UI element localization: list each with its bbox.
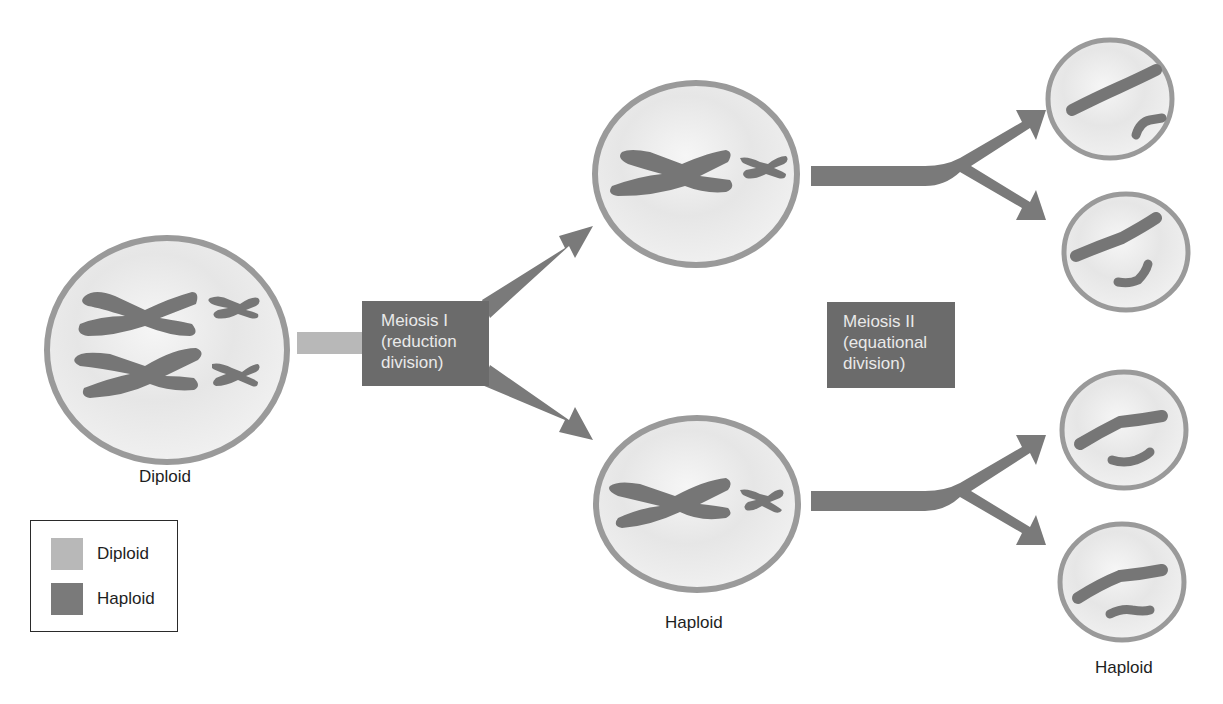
gamete-4: [1060, 524, 1184, 640]
diploid-swatch: [51, 538, 83, 570]
meiosis1-line-2: (reduction: [381, 331, 489, 352]
meiosis2-line-3: division): [843, 353, 955, 374]
meiosis1-bottom-cell: [596, 418, 798, 590]
legend-item-haploid: Haploid: [51, 583, 155, 615]
meiosis2-top-fork-arrow: [811, 110, 1046, 220]
gamete-2: [1064, 194, 1188, 310]
meiosis2-line-2: (equational: [843, 332, 955, 353]
meiosis1-line-1: Meiosis I: [381, 310, 489, 331]
parent-cell-label: Diploid: [139, 467, 191, 487]
diagram-canvas: [0, 0, 1223, 704]
legend-label-haploid: Haploid: [97, 589, 155, 609]
meiosis-diagram: Meiosis I (reduction division) Meiosis I…: [0, 0, 1223, 704]
gamete-3: [1062, 372, 1186, 488]
meiosis2-product-label: Haploid: [1095, 658, 1153, 678]
legend: Diploid Haploid: [30, 520, 178, 632]
arrow-up-right-icon: [482, 226, 593, 318]
legend-label-diploid: Diploid: [97, 544, 149, 564]
meiosis1-top-cell: [595, 83, 797, 265]
meiosis1-line-3: division): [381, 352, 489, 373]
legend-item-diploid: Diploid: [51, 538, 149, 570]
meiosis2-line-1: Meiosis II: [843, 311, 955, 332]
meiosis1-product-label: Haploid: [665, 613, 723, 633]
meiosis1-arrows: [482, 226, 593, 440]
gamete-1: [1048, 40, 1172, 158]
diploid-connector-bar: [297, 332, 367, 354]
meiosis2-label-box: Meiosis II (equational division): [827, 302, 955, 388]
haploid-swatch: [51, 583, 83, 615]
meiosis2-bottom-fork-arrow: [811, 435, 1046, 545]
meiosis1-label-box: Meiosis I (reduction division): [362, 301, 489, 386]
parent-diploid-cell: [47, 238, 287, 462]
arrow-down-right-icon: [482, 365, 593, 440]
